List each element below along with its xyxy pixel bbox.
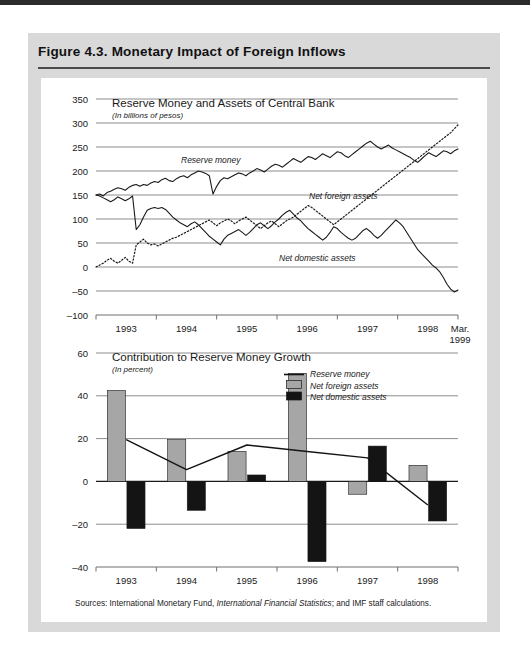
y-tick-label: 0 — [83, 262, 88, 273]
chart-title: Reserve Money and Assets of Central Bank — [112, 97, 335, 109]
bar-net-domestic-assets — [248, 475, 266, 481]
series-net-foreign-assets — [96, 125, 458, 267]
x-tick-label: 1996 — [297, 323, 318, 334]
sources-prefix: Sources: International Monetary Fund, — [75, 599, 217, 608]
y-tick-label: –20 — [72, 519, 88, 530]
y-tick-label: 250 — [72, 142, 88, 153]
page-title: Figure 4.3. Monetary Impact of Foreign I… — [38, 44, 490, 66]
bar-net-domestic-assets — [187, 481, 205, 510]
annotation-net-domestic-assets: Net domestic assets — [279, 253, 356, 263]
y-tick-label: 50 — [77, 238, 88, 249]
x-tick-label-mar: Mar. — [451, 323, 469, 334]
bar-net-foreign-assets — [288, 373, 306, 481]
y-tick-label: 200 — [72, 166, 88, 177]
legend-color-swatch — [287, 381, 302, 389]
chart-title: Contribution to Reserve Money Growth — [112, 351, 311, 363]
x-tick-label: 1994 — [176, 323, 197, 334]
y-tick-label: 40 — [77, 390, 88, 401]
bar-net-foreign-assets — [349, 481, 367, 494]
bar-net-foreign-assets — [168, 440, 186, 482]
y-tick-label: –40 — [72, 562, 88, 573]
y-tick-label: –50 — [72, 286, 88, 297]
sources-italic-title: International Financial Statistics — [217, 599, 332, 608]
bar-net-domestic-assets — [127, 481, 145, 528]
x-tick-label-1999: 1999 — [449, 334, 470, 345]
x-tick-label: 1997 — [357, 323, 378, 334]
x-tick-label: 1993 — [116, 575, 137, 586]
bar-net-foreign-assets — [228, 451, 246, 481]
bar-net-domestic-assets — [368, 446, 386, 481]
x-tick-label: 1997 — [357, 575, 378, 586]
x-tick-label: 1995 — [236, 575, 257, 586]
title-divider — [38, 67, 490, 69]
bar-net-foreign-assets — [107, 390, 125, 481]
annotation-net-foreign-assets: Net foreign assets — [309, 191, 378, 201]
y-tick-label: 0 — [83, 476, 88, 487]
x-tick-label: 1998 — [417, 323, 438, 334]
bar-net-domestic-assets — [429, 481, 447, 521]
x-tick-label: 1993 — [116, 323, 137, 334]
plot-card: –100–50050100150200250300350199319941995… — [41, 78, 487, 622]
chart-contribution-to-reserve-money-growth: –40–200204060199319941995199619971998Con… — [72, 348, 458, 586]
legend-label: Reserve money — [310, 369, 370, 379]
y-tick-label: 20 — [77, 433, 88, 444]
y-tick-label: 60 — [77, 348, 88, 359]
annotation-reserve-money: Reserve money — [181, 155, 241, 165]
legend-label: Net domestic assets — [310, 392, 387, 402]
x-tick-label: 1996 — [297, 575, 318, 586]
sources-note: Sources: International Monetary Fund, In… — [75, 598, 485, 610]
y-tick-label: 150 — [72, 190, 88, 201]
bar-net-domestic-assets — [308, 481, 326, 561]
x-tick-label: 1995 — [236, 323, 257, 334]
y-tick-label: 350 — [72, 94, 88, 105]
charts-canvas: –100–50050100150200250300350199319941995… — [41, 78, 487, 622]
x-tick-label: 1994 — [176, 575, 197, 586]
series-reserve-money — [96, 141, 458, 196]
chart-subtitle: (In billions of pesos) — [112, 111, 183, 120]
y-tick-label: 300 — [72, 118, 88, 129]
y-tick-label: 100 — [72, 214, 88, 225]
legend-color-swatch — [287, 392, 302, 400]
charts-svg: –100–50050100150200250300350199319941995… — [41, 78, 487, 622]
x-tick-label: 1998 — [417, 575, 438, 586]
bar-net-foreign-assets — [409, 465, 427, 481]
page-top-band — [0, 0, 530, 5]
legend-label: Net foreign assets — [310, 381, 379, 391]
sources-suffix: ; and IMF staff calculations. — [332, 599, 432, 608]
chart-subtitle: (In percent) — [112, 365, 153, 374]
chart-reserve-money-and-assets: –100–50050100150200250300350199319941995… — [67, 94, 471, 345]
y-tick-label: –100 — [67, 310, 88, 321]
